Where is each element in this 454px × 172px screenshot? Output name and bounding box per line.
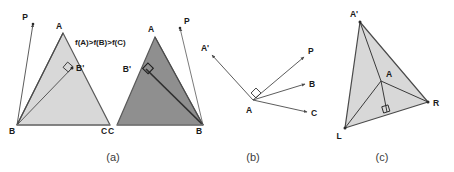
panel-c-triangle: A' L R A bbox=[336, 9, 439, 141]
point-p-light-dot bbox=[32, 23, 35, 26]
label-a-panel-b: A bbox=[246, 105, 252, 115]
panel-b-ray-fan: A' P B C A bbox=[201, 43, 317, 118]
ray-a-to-c bbox=[253, 100, 307, 112]
label-a-panel-c: A bbox=[386, 69, 392, 79]
panel-a-dark-triangle: A C B P B' bbox=[108, 16, 203, 136]
label-aprime-panel-c: A' bbox=[350, 9, 358, 19]
label-b-dark: B bbox=[196, 126, 202, 136]
geometry-figure-svg: A B C P B' f(A)>f(B)>f(C) A C B P B' bbox=[0, 0, 454, 172]
label-c-light: C bbox=[101, 126, 107, 136]
ray-a-to-aprime bbox=[212, 55, 253, 100]
ray-a-to-b bbox=[253, 84, 305, 100]
label-a-light: A bbox=[56, 21, 62, 31]
label-aprime-panel-b: A' bbox=[201, 43, 209, 53]
vertex-r-dot bbox=[427, 101, 430, 104]
caption-c: (c) bbox=[376, 151, 389, 163]
right-angle-marker-panel-b bbox=[251, 88, 261, 98]
label-p-dark: P bbox=[184, 16, 190, 26]
label-r-panel-c: R bbox=[433, 98, 439, 108]
point-p-dark-dot bbox=[179, 27, 182, 30]
label-b-light: B bbox=[9, 126, 15, 136]
label-c-dark: C bbox=[108, 126, 114, 136]
label-p-light: P bbox=[22, 12, 28, 22]
label-p-panel-b: P bbox=[308, 46, 314, 56]
panel-a-light-triangle: A B C P B' bbox=[9, 12, 110, 136]
label-l-panel-c: L bbox=[336, 131, 341, 141]
label-bprime-light: B' bbox=[76, 63, 84, 73]
caption-a: (a) bbox=[106, 151, 119, 163]
label-a-dark: A bbox=[148, 24, 154, 34]
inequality-annotation: f(A)>f(B)>f(C) bbox=[75, 38, 126, 47]
vertex-l-dot bbox=[344, 127, 347, 130]
figure-container: A B C P B' f(A)>f(B)>f(C) A C B P B' bbox=[0, 0, 454, 172]
label-c-panel-b: C bbox=[311, 108, 317, 118]
label-bprime-dark: B' bbox=[123, 64, 131, 74]
point-bprime-light-dot bbox=[71, 67, 74, 70]
vertex-aprime-dot bbox=[359, 21, 362, 24]
label-b-panel-b: B bbox=[309, 79, 315, 89]
caption-b: (b) bbox=[246, 151, 259, 163]
